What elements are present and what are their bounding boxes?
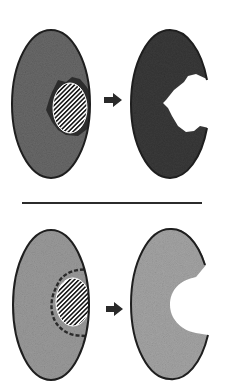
- hatched-lesion: [56, 278, 90, 326]
- right-arrow-icon: [104, 93, 122, 107]
- top-after-ellipse: [131, 30, 209, 178]
- right-arrow-icon: [106, 302, 123, 316]
- diagram-canvas: [0, 0, 228, 389]
- hatched-lesion: [53, 83, 87, 133]
- bottom-before-ellipse: [13, 230, 90, 380]
- top-before-ellipse: [12, 30, 92, 178]
- bottom-after-ellipse: [131, 229, 208, 379]
